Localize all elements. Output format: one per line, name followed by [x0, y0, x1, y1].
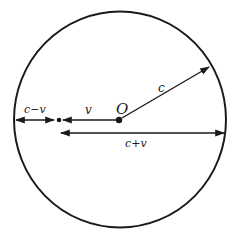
- label-o: O: [116, 100, 128, 118]
- source-point: [57, 118, 62, 123]
- diagram-canvas: O c v c−v c+v: [0, 0, 241, 244]
- label-c: c: [158, 81, 165, 95]
- radius-c-arrow: [122, 67, 209, 118]
- diagram: O c v c−v c+v: [0, 0, 241, 244]
- label-c-minus-v: c−v: [24, 103, 46, 116]
- label-c-plus-v: c+v: [125, 137, 147, 150]
- label-v: v: [85, 103, 92, 117]
